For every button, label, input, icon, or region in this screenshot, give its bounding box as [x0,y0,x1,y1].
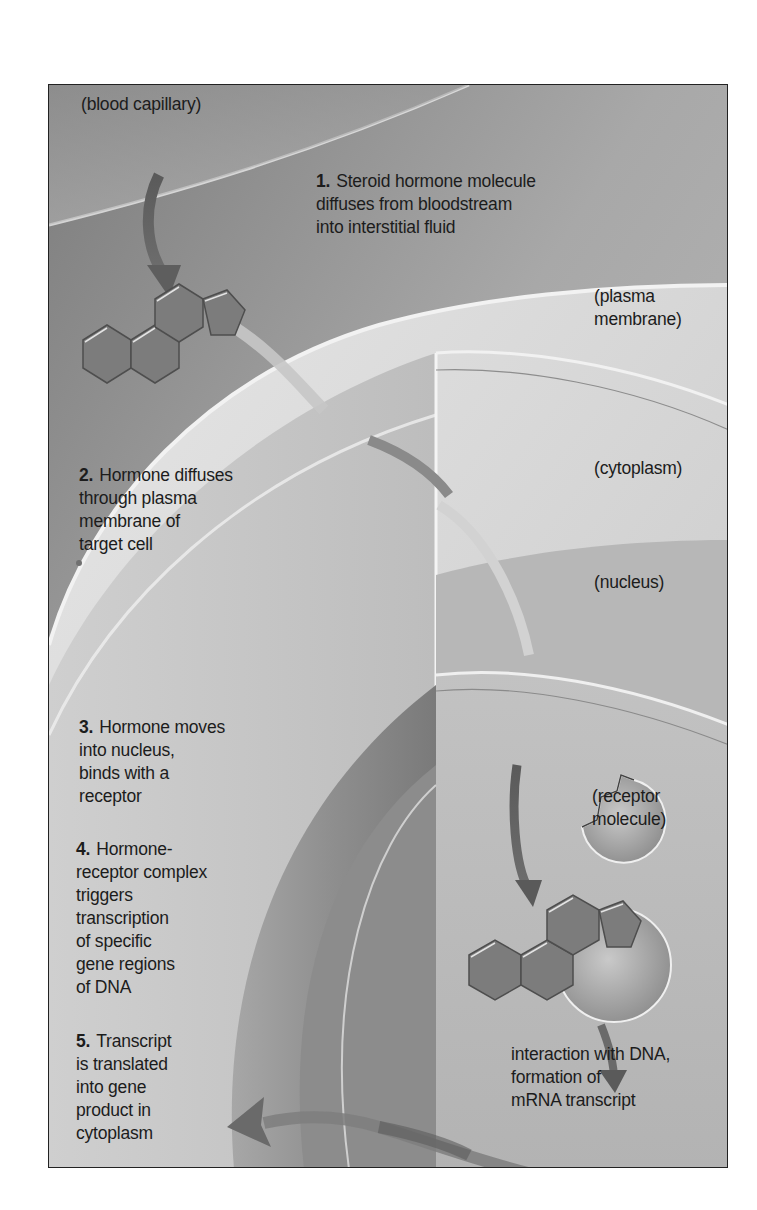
step-5-text: Transcript is translated into gene produ… [76,1031,171,1143]
step-1-text: Steroid hormone molecule diffuses from b… [316,171,536,237]
diagram-artwork [49,85,728,1168]
label-cytoplasm: (cytoplasm) [594,457,682,480]
label-plasma-membrane: (plasma membrane) [594,285,682,331]
step-2-number: 2. [79,465,93,485]
label-dna-interaction: interaction with DNA, formation of mRNA … [511,1043,670,1112]
step-4: 4.Hormone- receptor complex triggers tra… [76,815,207,999]
step-3-number: 3. [79,717,93,737]
step-4-number: 4. [76,839,90,859]
step-2: 2.Hormone diffuses through plasma membra… [79,441,233,556]
step-1: 1.Steroid hormone molecule diffuses from… [316,147,536,239]
step-4-text: Hormone- receptor complex triggers trans… [76,839,207,997]
label-receptor-molecule: (receptor molecule) [592,785,666,831]
label-blood-capillary: (blood capillary) [81,93,201,116]
step-2-text: Hormone diffuses through plasma membrane… [79,465,233,554]
step-5-number: 5. [76,1031,90,1051]
step-3: 3.Hormone moves into nucleus, binds with… [79,693,225,808]
label-nucleus: (nucleus) [594,571,664,594]
step-1-number: 1. [316,171,330,191]
step-3-text: Hormone moves into nucleus, binds with a… [79,717,225,806]
step-5: 5.Transcript is translated into gene pro… [76,1007,171,1145]
steroid-hormone-diagram: (blood capillary) 1.Steroid hormone mole… [48,84,728,1168]
